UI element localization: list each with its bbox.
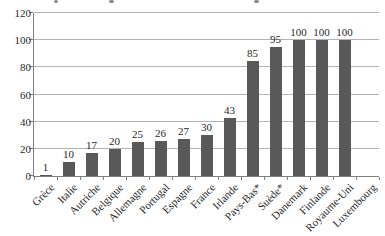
x-tick — [195, 177, 196, 180]
x-tick — [287, 177, 288, 180]
y-tick-label: 20 — [3, 143, 31, 155]
x-tick — [241, 177, 242, 180]
bar — [109, 149, 121, 176]
bar — [247, 61, 259, 176]
x-tick — [149, 177, 150, 180]
y-tick-label: 40 — [3, 116, 31, 128]
y-tick-label: 80 — [3, 61, 31, 73]
x-tick — [103, 177, 104, 180]
bar-value-label: 43 — [215, 104, 245, 116]
bar — [86, 153, 98, 176]
y-tick-label: 60 — [3, 89, 31, 101]
bar — [40, 175, 52, 176]
plot-area: 110172025262730438595100100100 — [33, 13, 379, 177]
y-tick-label: 120 — [3, 7, 31, 19]
x-tick — [34, 177, 35, 180]
bar — [201, 135, 213, 176]
x-tick — [57, 177, 58, 180]
bar-chart-figure: 110172025262730438595100100100 020406080… — [0, 0, 385, 236]
x-tick — [218, 177, 219, 180]
bar-value-label: 85 — [238, 47, 268, 59]
x-tick — [126, 177, 127, 180]
x-tick — [310, 177, 311, 180]
bar — [270, 47, 282, 176]
bar-value-label: 100 — [330, 26, 360, 38]
x-category-label: Grèce — [29, 181, 56, 208]
bar — [132, 142, 144, 176]
bar-value-label: 30 — [192, 121, 222, 133]
bar — [155, 141, 167, 176]
gridline — [34, 12, 379, 13]
x-tick — [333, 177, 334, 180]
bar — [339, 40, 351, 176]
cropped-title-fragment — [54, 0, 58, 3]
x-tick — [172, 177, 173, 180]
x-tick — [356, 177, 357, 180]
bar — [293, 40, 305, 176]
bar — [316, 40, 328, 176]
y-tick-label: 0 — [3, 170, 31, 182]
cropped-title-fragment — [254, 0, 259, 3]
x-tick — [80, 177, 81, 180]
bar — [224, 118, 236, 176]
cropped-title-fragment — [109, 0, 114, 3]
bar — [63, 162, 75, 176]
y-tick-label: 100 — [3, 34, 31, 46]
x-tick — [264, 177, 265, 180]
bar-value-label: 1 — [31, 161, 61, 173]
x-tick — [379, 177, 380, 180]
bar — [178, 139, 190, 176]
